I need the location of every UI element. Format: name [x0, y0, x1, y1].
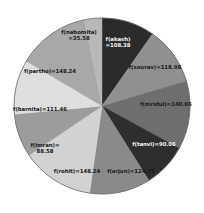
pie-chart: f(akash) =108.38f(sourav)=118.98f(mridul…: [0, 0, 204, 213]
pie-chart-canvas: [0, 0, 204, 213]
pie-slice-group: [14, 18, 190, 194]
